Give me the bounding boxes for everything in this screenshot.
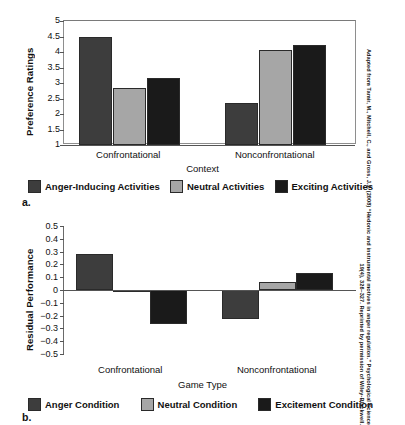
legend-label: Anger Condition bbox=[45, 399, 119, 410]
y-tickmark bbox=[60, 226, 64, 227]
y-tick-4: 4 bbox=[55, 47, 60, 56]
source-citation-line-2: 19(4), 326–327. Reprinted by permission … bbox=[359, 264, 366, 425]
y-tickmark bbox=[60, 68, 64, 69]
y-axis-tick-labels: 11.522.533.544.55 bbox=[34, 18, 60, 146]
legend-b: Anger ConditionNeutral ConditionExciteme… bbox=[28, 398, 373, 411]
x-category-confrontational: Confrontational bbox=[98, 364, 162, 375]
bar-nonconfrontational-neutral-activities bbox=[259, 50, 292, 145]
y-tickmark bbox=[60, 37, 64, 38]
y-tickmark bbox=[60, 21, 64, 22]
source-citation-line-1: Adapted from Tamir, M., Mitchell, C., an… bbox=[365, 49, 372, 425]
bar-nonconfrontational-anger-condition bbox=[222, 290, 259, 319]
panel-letter-b: b. bbox=[22, 411, 31, 423]
legend-swatch-icon bbox=[141, 398, 154, 411]
legend-swatch-icon bbox=[258, 398, 271, 411]
y-tickmark bbox=[60, 264, 64, 265]
bar-confrontational-anger-inducing-activities bbox=[79, 37, 112, 145]
plot-area-b bbox=[63, 226, 356, 354]
y-tick-4_5: 4.5 bbox=[47, 31, 60, 40]
y-tick-3: 3 bbox=[55, 78, 60, 87]
y-tick-2_5: 2.5 bbox=[47, 93, 60, 102]
y-tick-neg0_3: −0.3 bbox=[40, 324, 58, 333]
x-category-nonconfrontational: Nonconfrontational bbox=[237, 364, 317, 375]
y-tick-0_5: 0.5 bbox=[45, 222, 58, 231]
y-tick-3_5: 3.5 bbox=[47, 62, 60, 71]
y-tickmark bbox=[60, 277, 64, 278]
y-tick-2: 2 bbox=[55, 109, 60, 118]
y-tick-neg0_4: −0.4 bbox=[40, 337, 58, 346]
legend-label: Neutral Activities bbox=[187, 181, 264, 192]
source-citation: Adapted from Tamir, M., Mitchell, C., an… bbox=[352, 0, 372, 425]
y-tickmark bbox=[60, 252, 64, 253]
legend-label: Neutral Condition bbox=[158, 399, 238, 410]
y-tick-0_3: 0.3 bbox=[45, 247, 58, 256]
bar-confrontational-neutral-activities bbox=[113, 88, 146, 145]
legend-a: Anger-Inducing ActivitiesNeutral Activit… bbox=[28, 180, 373, 193]
legend-swatch-icon bbox=[28, 180, 41, 193]
legend-entry-anger-condition: Anger Condition bbox=[28, 398, 119, 411]
bar-confrontational-anger-condition bbox=[76, 254, 113, 290]
bar-confrontational-exciting-activities bbox=[147, 78, 180, 145]
panel-letter-a: a. bbox=[22, 196, 31, 208]
y-tick-1: 1 bbox=[55, 140, 60, 149]
x-category-nonconfrontational: Nonconfrontational bbox=[235, 149, 315, 160]
y-tickmark bbox=[60, 354, 64, 355]
y-tickmark bbox=[60, 316, 64, 317]
legend-entry-neutral-condition: Neutral Condition bbox=[141, 398, 238, 411]
bar-nonconfrontational-exciting-activities bbox=[293, 45, 326, 145]
y-axis-tick-labels: 0.50.40.30.20.10−0.1−0.2−0.3−0.4−0.5 bbox=[32, 226, 58, 354]
figure-a-preference-ratings: Preference Ratings 11.522.533.544.55 Con… bbox=[0, 0, 405, 212]
y-tick-neg0_5: −0.5 bbox=[40, 350, 58, 359]
bar-nonconfrontational-excitement-condition bbox=[296, 273, 333, 290]
y-tickmark bbox=[60, 99, 64, 100]
y-tick-0_4: 0.4 bbox=[45, 234, 58, 243]
x-category-confrontational: Confrontational bbox=[96, 149, 160, 160]
y-tickmark bbox=[60, 83, 64, 84]
legend-swatch-icon bbox=[275, 180, 288, 193]
bar-nonconfrontational-anger-inducing-activities bbox=[225, 103, 258, 145]
y-tick-5: 5 bbox=[55, 16, 60, 25]
y-tick-neg0_2: −0.2 bbox=[40, 311, 58, 320]
y-tickmark bbox=[60, 341, 64, 342]
legend-entry-anger-inducing-activities: Anger-Inducing Activities bbox=[28, 180, 160, 193]
y-tick-neg0_1: −0.1 bbox=[40, 298, 58, 307]
y-tickmark bbox=[60, 303, 64, 304]
y-tick-1_5: 1.5 bbox=[47, 124, 60, 133]
y-tickmark bbox=[60, 52, 64, 53]
baseline-rule bbox=[64, 145, 355, 146]
bar-confrontational-excitement-condition bbox=[150, 290, 187, 324]
y-tickmark bbox=[60, 114, 64, 115]
x-axis-label: Context bbox=[0, 163, 405, 174]
y-tickmark bbox=[60, 130, 64, 131]
legend-entry-neutral-activities: Neutral Activities bbox=[170, 180, 264, 193]
figure-b-residual-performance: Residual Performance 0.50.40.30.20.10−0.… bbox=[0, 212, 405, 425]
y-tick-0: 0 bbox=[53, 286, 58, 295]
x-axis-label: Game Type bbox=[0, 379, 405, 390]
y-tick-0_2: 0.2 bbox=[45, 260, 58, 269]
plot-area-a bbox=[63, 20, 356, 144]
bar-nonconfrontational-neutral-condition bbox=[259, 282, 296, 290]
legend-swatch-icon bbox=[170, 180, 183, 193]
legend-label: Anger-Inducing Activities bbox=[45, 181, 160, 192]
y-tickmark bbox=[60, 328, 64, 329]
baseline-rule bbox=[64, 290, 356, 291]
y-tick-0_1: 0.1 bbox=[45, 273, 58, 282]
y-tickmark bbox=[60, 239, 64, 240]
legend-swatch-icon bbox=[28, 398, 41, 411]
